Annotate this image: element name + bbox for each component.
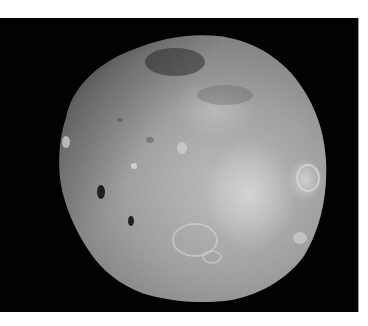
moon-image [0, 0, 368, 326]
moon-surface [0, 0, 368, 326]
